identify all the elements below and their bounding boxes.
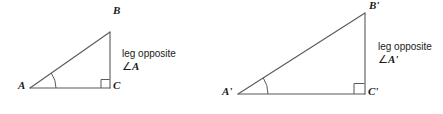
vertex-label-c-prime: C' — [368, 86, 378, 97]
callout-angle-name-prime: A' — [388, 53, 398, 65]
geometry-figure-similar-right-triangles: A B C leg opposite ∠A A' B' C' leg oppos… — [0, 0, 443, 114]
angle-arc-a-prime — [263, 78, 268, 94]
right-angle-marker-c — [101, 80, 110, 89]
angle-symbol-icon: ∠ — [122, 60, 132, 72]
callout-angle-reference: ∠A — [122, 60, 176, 73]
triangle-abc-prime-shape — [238, 13, 365, 94]
right-angle-marker-c-prime — [354, 84, 365, 95]
callout-line-1: leg opposite — [122, 47, 176, 60]
vertex-label-a: A — [18, 80, 25, 91]
callout-leg-opposite-angle-a: leg opposite ∠A — [122, 47, 176, 73]
callout-leg-opposite-angle-a-prime: leg opposite ∠A' — [378, 40, 432, 66]
callout-line-1-prime: leg opposite — [378, 40, 432, 53]
callout-angle-name: A — [132, 60, 139, 72]
triangle-abc-shape — [30, 32, 110, 88]
angle-arc-a — [51, 73, 56, 88]
vertex-label-b-prime: B' — [369, 0, 379, 11]
vertex-label-a-prime: A' — [222, 86, 232, 97]
vertex-label-b: B — [113, 5, 120, 16]
hypotenuse-ab-line — [30, 32, 110, 88]
angle-symbol-icon-prime: ∠ — [378, 53, 388, 65]
vertex-label-c: C — [113, 80, 120, 91]
callout-angle-reference-prime: ∠A' — [378, 53, 432, 66]
hypotenuse-a-prime-b-prime-line — [238, 13, 365, 94]
